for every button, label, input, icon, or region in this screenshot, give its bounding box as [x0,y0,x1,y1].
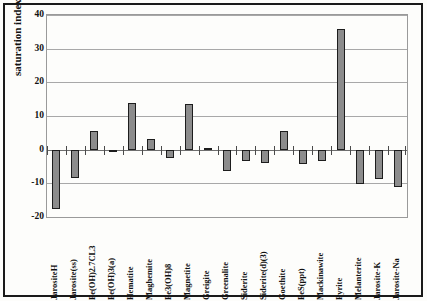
gridline-10 [47,116,407,117]
bar [394,150,402,187]
bar [261,150,269,163]
chart-figure: saturation index SI 403020100-10-20 Jaro… [0,0,427,301]
bar [147,139,155,150]
x-axis-tick [369,146,370,155]
x-axis-label: Fe(OH)3(a) [106,258,116,300]
x-axis-label: Jarosite-Na [391,258,401,300]
x-axis-label: Hematite [125,266,135,300]
x-axis-label: Goethite [277,269,287,300]
bar [299,150,307,164]
x-label-slot: Greigite [198,220,217,296]
x-axis-label: Greigite [201,270,211,300]
x-axis-tick [293,146,294,155]
y-tick-label: 30 [20,43,44,53]
y-tick-label: 40 [20,9,44,19]
bar [166,150,174,159]
x-label-slot: Fe(OH)2.7CL3 [84,220,103,296]
x-label-slot: Jarosite(ss) [65,220,84,296]
x-axis-tick [350,146,351,155]
x-axis-tick [123,146,124,155]
bar [71,150,79,178]
y-tick-label: 0 [20,144,44,154]
x-label-slot: FeS(ppt) [292,220,311,296]
x-axis-label: Jarosite-K [372,262,382,300]
x-axis-label: Jarosite(ss) [68,259,78,300]
bar [223,150,231,171]
x-label-slot: Siderite(d)(3) [254,220,273,296]
bar [337,29,345,149]
x-label-slot: Jarosite-Na [387,220,406,296]
x-axis-tick [47,146,48,155]
bar [185,104,193,150]
x-label-slot: Siderite [235,220,254,296]
x-axis-tick [199,146,200,155]
gridline-40 [47,15,407,16]
x-label-slot: Jarosite-K [368,220,387,296]
x-label-slot: Fe(OH)3(a) [103,220,122,296]
x-axis-tick [104,146,105,155]
x-axis-tick [274,146,275,155]
x-axis-label: JarositeH [49,265,59,300]
x-axis-tick [218,146,219,155]
x-axis-tick [85,146,86,155]
x-axis-tick [255,146,256,155]
bar [375,150,383,179]
x-axis-label: Siderite(d)(3) [258,251,268,300]
x-axis-tick [236,146,237,155]
x-axis-label: Mackinawite [315,253,325,300]
bar [90,131,98,150]
y-axis-tick-labels: 403020100-10-20 [20,14,44,218]
x-axis-label: Siderite [239,272,249,300]
bar [280,131,288,149]
x-axis-label: Maghemite [144,259,154,300]
plot-area [46,14,408,218]
x-label-slot: Greenalite [217,220,236,296]
x-axis-label: Fe(OH)2.7CL3 [87,245,97,300]
y-tick-label: 20 [20,76,44,86]
gridline--20 [47,217,407,218]
bar [204,148,212,150]
x-label-slot: Fe3(OH)8 [160,220,179,296]
bar [128,103,136,149]
y-tick-label: -20 [20,211,44,221]
bar [356,150,364,184]
x-axis-label: Fe3(OH)8 [163,264,173,300]
x-label-slot: Goethite [273,220,292,296]
x-axis-label: Greenalite [220,262,230,300]
y-tick-label: -10 [20,177,44,187]
x-axis-tick [142,146,143,155]
x-axis-tick [312,146,313,155]
x-label-slot: Melanterite [349,220,368,296]
x-axis-label: Melanterite [353,258,363,300]
x-label-slot: Pyrite [330,220,349,296]
x-label-slot: Maghemite [141,220,160,296]
x-axis-category-labels: JarositeHJarosite(ss)Fe(OH)2.7CL3Fe(OH)3… [46,220,408,296]
x-label-slot: JarositeH [46,220,65,296]
gridline--10 [47,183,407,184]
x-label-slot: Hematite [122,220,141,296]
x-axis-tick [405,146,406,155]
x-axis-tick [66,146,67,155]
x-axis-tick [180,146,181,155]
x-axis-tick [331,146,332,155]
gridline-20 [47,82,407,83]
bar [242,150,250,161]
y-tick-label: 10 [20,110,44,120]
x-axis-label: Pyrite [334,278,344,300]
bar [318,150,326,161]
bar [109,150,117,152]
gridline-30 [47,49,407,50]
x-label-slot: Magnetite [179,220,198,296]
x-axis-label: Magnetite [182,263,192,300]
x-axis-label: FeS(ppt) [296,268,306,300]
x-axis-tick [161,146,162,155]
x-axis-tick [388,146,389,155]
x-label-slot: Mackinawite [311,220,330,296]
bar [52,150,60,209]
